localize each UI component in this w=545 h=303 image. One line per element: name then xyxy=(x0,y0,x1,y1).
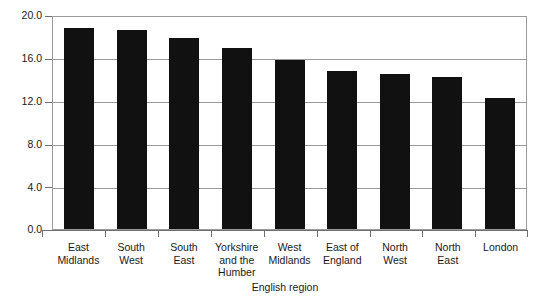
x-label-east-midlands: EastMidlands xyxy=(52,241,105,279)
bar-slot xyxy=(474,17,527,229)
bar-slot xyxy=(368,17,421,229)
x-label-london: London xyxy=(474,241,527,279)
x-axis-tick xyxy=(211,230,212,237)
x-axis-tick xyxy=(475,230,476,237)
bar-series xyxy=(53,17,526,229)
bar-south-west[interactable] xyxy=(117,30,147,229)
x-label-south-west: SouthWest xyxy=(105,241,158,279)
bar-london[interactable] xyxy=(485,98,515,229)
x-label-north-west: NorthWest xyxy=(369,241,422,279)
bar-chart: 20.0 16.0 12.0 8.0 4.0 0.0 xyxy=(0,0,545,303)
x-label-west-midlands: WestMidlands xyxy=(263,241,316,279)
x-axis-title: English region xyxy=(215,281,355,293)
y-tick-label-16: 16.0 xyxy=(0,53,42,64)
x-axis-tick xyxy=(264,230,265,237)
bar-slot xyxy=(53,17,106,229)
bar-east-of-england[interactable] xyxy=(327,71,357,229)
bar-south-east[interactable] xyxy=(169,38,199,229)
x-axis-line xyxy=(42,230,528,231)
x-axis-tick xyxy=(105,230,106,237)
x-axis-tick xyxy=(42,230,43,237)
y-tick-label-0: 0.0 xyxy=(0,224,42,235)
bar-east-midlands[interactable] xyxy=(64,28,94,229)
x-label-yorkshire-humber: Yorkshireand theHumber xyxy=(210,241,263,279)
bar-slot xyxy=(211,17,264,229)
x-label-east-of-england: East ofEngland xyxy=(316,241,369,279)
bar-slot xyxy=(106,17,159,229)
x-axis-tick xyxy=(158,230,159,237)
bar-north-west[interactable] xyxy=(380,74,410,229)
plot-area xyxy=(52,16,527,230)
bar-slot xyxy=(158,17,211,229)
y-tick-label-8: 8.0 xyxy=(0,139,42,150)
x-axis-labels: EastMidlands SouthWest SouthEast Yorkshi… xyxy=(52,241,527,279)
bar-slot xyxy=(421,17,474,229)
bar-slot xyxy=(316,17,369,229)
bar-north-east[interactable] xyxy=(432,77,462,229)
bar-west-midlands[interactable] xyxy=(275,60,305,229)
bar-yorkshire-humber[interactable] xyxy=(222,48,252,229)
x-axis-tick xyxy=(370,230,371,237)
x-axis-tick xyxy=(422,230,423,237)
y-tick-label-12: 12.0 xyxy=(0,96,42,107)
x-label-north-east: NorthEast xyxy=(421,241,474,279)
bar-slot xyxy=(263,17,316,229)
x-axis-tick xyxy=(317,230,318,237)
x-label-south-east: SouthEast xyxy=(158,241,211,279)
y-tick-label-4: 4.0 xyxy=(0,182,42,193)
y-tick-label-20: 20.0 xyxy=(0,10,42,21)
x-axis-tick xyxy=(527,230,528,237)
